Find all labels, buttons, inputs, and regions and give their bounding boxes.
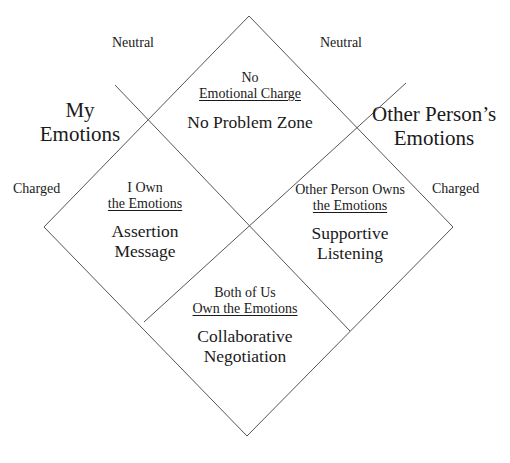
- zone-i-own: I Own the Emotions Assertion Message: [95, 180, 195, 261]
- my-emotions-title: My Emotions: [38, 98, 122, 146]
- right-neutral-label: Neutral: [320, 35, 362, 51]
- left-neutral-label: Neutral: [112, 35, 154, 51]
- right-charged-label: Charged: [432, 181, 479, 197]
- left-charged-label: Charged: [13, 181, 60, 197]
- zone-no-problem: No Emotional Charge No Problem Zone: [180, 70, 320, 132]
- zone-both-own: Both of Us Own the Emotions Collaborativ…: [180, 285, 310, 366]
- other-person-emotions-title: Other Person’s Emotions: [372, 102, 496, 150]
- zone-other-person-owns: Other Person Owns the Emotions Supportiv…: [280, 182, 420, 263]
